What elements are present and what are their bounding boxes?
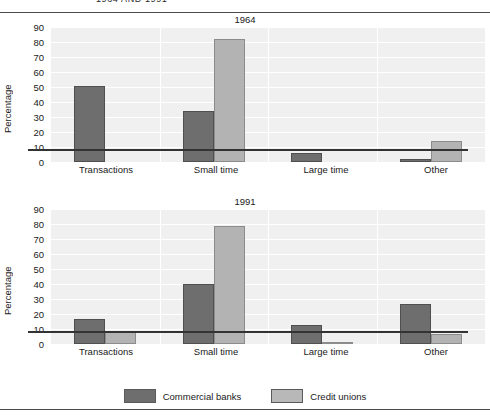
bar-1964-large-time-commercial-banks xyxy=(291,153,322,162)
y-tick-40: 40 xyxy=(33,97,44,108)
chart-panel-1991: 1991 Percentage 0102030405060708090 Tran… xyxy=(0,196,490,382)
y-tick-70: 70 xyxy=(33,234,44,245)
bar-1991-large-time-commercial-banks xyxy=(291,325,322,345)
x-tick-label-large-time: Large time xyxy=(304,346,349,357)
bar-1991-small-time-commercial-banks xyxy=(183,284,214,344)
y-tick-0: 0 xyxy=(39,339,44,350)
legend-swatch-commercial-banks xyxy=(124,389,156,403)
category-separator xyxy=(377,209,378,344)
bar-1964-other-commercial-banks xyxy=(400,159,431,162)
plot-wrap-1991: 0102030405060708090 xyxy=(17,209,485,359)
plot-wrap-1964: 0102030405060708090 xyxy=(17,27,485,177)
y-tick-20: 20 xyxy=(33,127,44,138)
header-divider xyxy=(0,12,490,13)
legend-label: Commercial banks xyxy=(163,391,242,402)
x-tick-label-transactions: Transactions xyxy=(79,346,133,357)
x-axis-labels-1964: TransactionsSmall timeLarge timeOther xyxy=(51,164,490,180)
x-tick-label-small-time: Small time xyxy=(194,346,238,357)
y-tick-60: 60 xyxy=(33,67,44,78)
legend-item: Credit unions xyxy=(271,389,366,403)
y-axis-ticks-1991: 0102030405060708090 xyxy=(17,209,47,344)
category-separator xyxy=(160,27,161,162)
bar-1964-other-credit-unions xyxy=(431,141,462,162)
x-axis-line-1964 xyxy=(28,149,468,151)
y-tick-50: 50 xyxy=(33,264,44,275)
chart-panel-1964: 1964 Percentage 0102030405060708090 Tran… xyxy=(0,14,490,196)
chart-title-1964: 1964 xyxy=(0,14,490,25)
y-axis-label-1991: Percentage xyxy=(0,236,14,346)
category-separator xyxy=(268,209,269,344)
y-tick-60: 60 xyxy=(33,249,44,260)
bar-1991-other-credit-unions xyxy=(431,334,462,345)
y-tick-90: 90 xyxy=(33,22,44,33)
y-axis-ticks-1964: 0102030405060708090 xyxy=(17,27,47,162)
y-tick-30: 30 xyxy=(33,112,44,123)
y-tick-80: 80 xyxy=(33,219,44,230)
x-tick-label-small-time: Small time xyxy=(194,164,238,175)
legend-item: Commercial banks xyxy=(124,389,242,403)
bar-1964-small-time-credit-unions xyxy=(214,39,245,162)
category-separator xyxy=(268,27,269,162)
category-separator xyxy=(160,209,161,344)
bar-1991-large-time-credit-unions xyxy=(322,342,353,344)
footer-divider xyxy=(0,409,490,410)
x-tick-label-large-time: Large time xyxy=(304,164,349,175)
legend-label: Credit unions xyxy=(310,391,366,402)
y-axis-label-1964: Percentage xyxy=(0,54,14,164)
y-tick-20: 20 xyxy=(33,309,44,320)
x-axis-line-1991 xyxy=(28,331,468,333)
category-separator xyxy=(377,27,378,162)
chart-legend: Commercial banksCredit unions xyxy=(0,386,490,406)
y-tick-80: 80 xyxy=(33,37,44,48)
y-tick-40: 40 xyxy=(33,279,44,290)
plot-area-1991 xyxy=(51,209,485,344)
page-header-title: 1964 AND 1991 xyxy=(96,0,167,4)
x-tick-label-other: Other xyxy=(424,164,448,175)
legend-swatch-credit-unions xyxy=(271,389,303,403)
y-tick-70: 70 xyxy=(33,52,44,63)
x-tick-label-transactions: Transactions xyxy=(79,164,133,175)
bar-1991-small-time-credit-unions xyxy=(214,226,245,345)
y-tick-0: 0 xyxy=(39,157,44,168)
y-tick-90: 90 xyxy=(33,204,44,215)
y-tick-50: 50 xyxy=(33,82,44,93)
x-tick-label-other: Other xyxy=(424,346,448,357)
y-tick-30: 30 xyxy=(33,294,44,305)
chart-title-1991: 1991 xyxy=(0,196,490,207)
bar-1991-other-commercial-banks xyxy=(400,304,431,345)
bar-1964-small-time-commercial-banks xyxy=(183,111,214,162)
plot-area-1964 xyxy=(51,27,485,162)
x-axis-labels-1991: TransactionsSmall timeLarge timeOther xyxy=(51,346,490,362)
